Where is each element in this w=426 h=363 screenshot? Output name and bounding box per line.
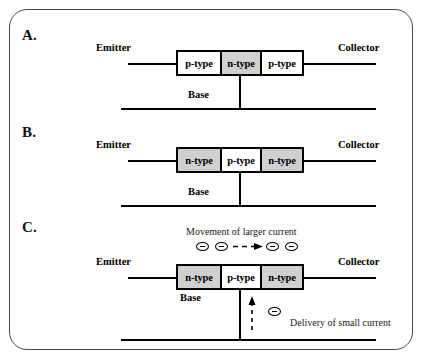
panel-b-segment-2: n-type xyxy=(262,149,302,171)
panel-letter-a: A. xyxy=(22,27,37,44)
panel-a-emitter-label: Emitter xyxy=(96,42,131,53)
panel-c-base-current-label: Delivery of small current xyxy=(290,317,391,328)
panel-a-base-label: Base xyxy=(188,89,209,100)
panel-c-segment-2: n-type xyxy=(262,266,302,288)
panel-c-block-row: n-type p-type n-type xyxy=(176,264,304,290)
panel-c-collector-label: Collector xyxy=(338,256,379,267)
figure-canvas: A. Emitter Collector p-type n-type p-typ… xyxy=(0,0,426,363)
panel-a-collector-lead xyxy=(302,63,376,65)
panel-c-emitter-label: Emitter xyxy=(96,256,131,267)
panel-b-emitter-label: Emitter xyxy=(96,139,131,150)
panel-a-segment-1: n-type xyxy=(220,52,262,74)
electron-minus-icon xyxy=(196,242,209,251)
panel-a-base-drop xyxy=(239,76,241,109)
electron-minus-icon xyxy=(266,242,279,251)
panel-c-base-line xyxy=(121,339,376,341)
panel-c-base-drop xyxy=(239,290,241,340)
panel-b-base-label: Base xyxy=(188,186,209,197)
panel-b-base-drop xyxy=(239,173,241,206)
panel-c-base-label: Base xyxy=(180,292,201,303)
panel-letter-b: B. xyxy=(22,124,36,141)
panel-b-base-line xyxy=(121,205,376,207)
electron-minus-icon xyxy=(215,242,228,251)
panel-a-base-line xyxy=(121,108,376,110)
electron-minus-icon xyxy=(285,242,298,251)
panel-b-collector-label: Collector xyxy=(338,139,379,150)
panel-a-emitter-lead xyxy=(128,63,178,65)
panel-a-collector-label: Collector xyxy=(338,42,379,53)
electron-minus-icon xyxy=(268,307,281,316)
panel-b-segment-0: n-type xyxy=(178,149,220,171)
panel-c-emitter-lead xyxy=(128,277,178,279)
panel-a-segment-0: p-type xyxy=(178,52,220,74)
panel-c-top-current-label: Movement of larger current xyxy=(186,226,297,237)
panel-b-block-row: n-type p-type n-type xyxy=(176,147,304,173)
panel-a-block-row: p-type n-type p-type xyxy=(176,50,304,76)
panel-c-collector-lead xyxy=(302,277,376,279)
panel-c-segment-1: p-type xyxy=(220,266,262,288)
panel-b-collector-lead xyxy=(302,160,376,162)
panel-a-segment-2: p-type xyxy=(262,52,302,74)
panel-c-segment-0: n-type xyxy=(178,266,220,288)
panel-b-emitter-lead xyxy=(128,160,178,162)
panel-letter-c: C. xyxy=(22,219,37,236)
panel-b-segment-1: p-type xyxy=(220,149,262,171)
